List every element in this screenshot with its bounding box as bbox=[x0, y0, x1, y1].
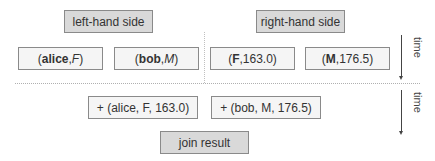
time-label-bottom: time bbox=[412, 92, 424, 113]
time-label-top: time bbox=[412, 37, 424, 58]
paren-close: ) bbox=[369, 52, 373, 66]
left-tuple-alice: (alice, F) bbox=[18, 47, 103, 70]
tuple-value: M bbox=[164, 52, 174, 66]
tuple-name: bob bbox=[139, 52, 161, 66]
join-tuple-text: + (bob, M, 176.5) bbox=[220, 101, 312, 115]
tuple-value: F bbox=[72, 52, 79, 66]
join-result-box: join result bbox=[160, 131, 249, 154]
tuple-key: F bbox=[232, 52, 239, 66]
paren-close: ) bbox=[273, 52, 277, 66]
right-hand-side-label: right-hand side bbox=[261, 15, 340, 29]
tuple-value: 176.5 bbox=[339, 52, 369, 66]
tuple-value: 163.0 bbox=[243, 52, 273, 66]
left-tuple-bob: (bob, M) bbox=[114, 47, 199, 70]
time-arrow-bottom-icon bbox=[401, 90, 402, 132]
tuple-key: M bbox=[326, 52, 336, 66]
paren-close: ) bbox=[174, 52, 178, 66]
paren-close: ) bbox=[79, 52, 83, 66]
join-result-label: join result bbox=[179, 136, 230, 150]
join-tuple-bob: + (bob, M, 176.5) bbox=[211, 96, 321, 119]
right-tuple-m: (M, 176.5) bbox=[305, 47, 390, 70]
right-hand-side-header: right-hand side bbox=[256, 10, 345, 33]
right-tuple-f: (F, 163.0) bbox=[210, 47, 295, 70]
left-hand-side-label: left-hand side bbox=[72, 15, 144, 29]
phase-divider bbox=[15, 83, 420, 84]
tuple-name: alice bbox=[42, 52, 69, 66]
join-tuple-text: + (alice, F, 163.0) bbox=[97, 101, 189, 115]
time-arrow-top-icon bbox=[401, 35, 402, 77]
left-hand-side-header: left-hand side bbox=[64, 10, 153, 33]
join-tuple-alice: + (alice, F, 163.0) bbox=[88, 96, 198, 119]
side-divider bbox=[204, 32, 205, 83]
